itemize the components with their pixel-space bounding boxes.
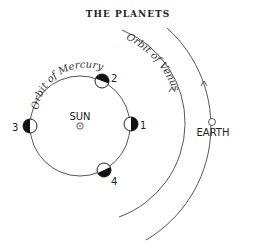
mercury-position-1-label: 1	[140, 120, 146, 131]
mercury-position-3-label: 3	[12, 122, 18, 133]
earth-label: EARTH	[196, 127, 229, 138]
mercury-phase-2-icon	[95, 72, 111, 88]
earth-icon	[209, 119, 216, 126]
mercury-position-4-label: 4	[111, 176, 117, 187]
mercury-phase-1-icon	[124, 117, 138, 131]
sun-label: SUN	[69, 111, 90, 122]
mercury-orbit-label: Orbit of Mercury	[29, 59, 105, 111]
mercury-position-2-label: 2	[111, 73, 117, 84]
venus-orbit-label: Orbit of Venus	[125, 31, 182, 93]
mercury-phase-3-icon	[23, 119, 37, 133]
planets-diagram: THE PLANETS Orbit of Mercury Orbit of Ve…	[0, 0, 256, 248]
diagram-title: THE PLANETS	[86, 9, 171, 19]
sun-center-dot	[79, 125, 81, 127]
